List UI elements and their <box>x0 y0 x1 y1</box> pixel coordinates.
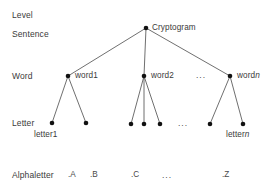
tree-edge <box>68 28 146 76</box>
node-label-letter1: letter1 <box>34 131 57 139</box>
tree-edge <box>144 28 146 76</box>
tree-edge <box>210 76 230 124</box>
tree-edge <box>230 76 243 124</box>
tree-node-letter2c[interactable] <box>158 122 163 127</box>
tree-node-word1[interactable] <box>66 74 71 79</box>
tree-node-word2[interactable] <box>142 74 147 79</box>
level-label-alphaletter: Alphaletter <box>12 171 54 180</box>
tree-node-letter2a[interactable] <box>129 122 134 127</box>
alphaletter-c: .C <box>131 171 139 179</box>
node-label-wordn-suffix: n <box>255 71 260 80</box>
ellipsis-alpha-row: ... <box>162 171 172 180</box>
level-label-word: Word <box>12 72 33 81</box>
tree-node-letter1[interactable] <box>50 121 55 126</box>
ellipsis-word-row: ... <box>196 71 206 80</box>
node-label-lettern: lettern <box>226 131 249 139</box>
node-label-root: Cryptogram <box>152 24 196 32</box>
tree-node-letterna[interactable] <box>208 122 213 127</box>
diagram-canvas: Level Sentence Word Letter Alphaletter C… <box>0 0 278 191</box>
tree-edge <box>131 76 144 124</box>
tree-edge <box>68 76 86 123</box>
tree-edge <box>146 28 230 76</box>
node-label-word2: word2 <box>151 72 174 80</box>
tree-node-root[interactable] <box>144 26 149 31</box>
tree-edge <box>144 76 160 124</box>
tree-edge <box>52 76 68 123</box>
ellipsis-letter-row: ... <box>178 119 188 128</box>
node-label-word1: word1 <box>75 72 98 80</box>
node-label-wordn: wordn <box>237 72 260 80</box>
node-label-lettern-stem: letter <box>226 130 245 139</box>
alphaletter-b: .B <box>90 171 98 179</box>
level-label-header: Level <box>12 11 33 20</box>
node-label-wordn-stem: word <box>237 71 255 80</box>
tree-node-letter2b[interactable] <box>142 122 147 127</box>
alphaletter-a: .A <box>68 171 76 179</box>
level-label-letter: Letter <box>12 119 34 128</box>
level-label-sentence: Sentence <box>12 30 49 39</box>
alphaletter-z: .Z <box>222 171 229 179</box>
tree-node-letter1b[interactable] <box>84 121 89 126</box>
tree-node-wordn[interactable] <box>228 74 233 79</box>
tree-node-lettern[interactable] <box>241 122 246 127</box>
node-label-lettern-suffix: n <box>245 130 250 139</box>
